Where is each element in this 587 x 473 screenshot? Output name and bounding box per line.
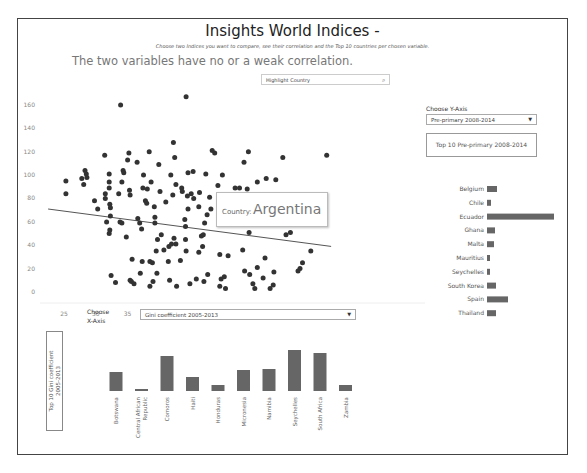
scatter-point	[191, 169, 196, 174]
scatter-point	[263, 256, 268, 261]
scatter-point	[151, 279, 156, 284]
scatter-point	[183, 224, 188, 229]
scatter-point	[245, 187, 250, 192]
scatter-point	[180, 189, 185, 194]
y-tick-label: 60	[27, 218, 35, 225]
scatter-point	[223, 286, 228, 291]
scatter-point	[222, 274, 227, 279]
y-top10-country-label: Thailand	[457, 309, 484, 316]
y-top10-bar	[487, 269, 490, 275]
scatter-point	[174, 284, 179, 289]
scatter-point	[145, 187, 150, 192]
scatter-point	[210, 148, 215, 153]
y-tick-label: 40	[27, 241, 35, 248]
scatter-point	[185, 194, 190, 199]
scatter-point	[95, 207, 100, 212]
x-axis-dropdown[interactable]: Gini coefficient 2005-2013 ▼	[140, 309, 356, 320]
scatter-point	[271, 283, 276, 288]
x-top10-bar	[314, 353, 327, 391]
scatter-point	[155, 237, 160, 242]
scatter-point	[178, 258, 183, 263]
x-axis-label-line1: Choose	[87, 307, 109, 316]
x-top10-bar	[339, 385, 352, 391]
country-tooltip: Country: Argentina	[216, 192, 328, 227]
tooltip-label: Country:	[222, 208, 252, 216]
scatter-point	[247, 272, 252, 277]
scatter-point	[132, 281, 137, 286]
y-tick-label: 20	[27, 265, 35, 272]
scatter-point	[116, 191, 121, 196]
y-top10-title: Top 10 Pre-primary 2008-2014	[426, 133, 537, 157]
scatter-point	[107, 186, 112, 191]
scatter-point	[186, 207, 191, 212]
scatter-point	[107, 171, 112, 176]
scatter-point	[108, 205, 113, 210]
scatter-point	[139, 226, 144, 231]
search-placeholder: Highlight Country	[266, 77, 310, 83]
x-top10-country-label: Haiti	[190, 397, 196, 410]
y-top10-bar	[487, 214, 554, 220]
scatter-point	[103, 196, 108, 201]
scatter-point	[158, 189, 163, 194]
scatter-point	[300, 260, 305, 265]
scatter-point	[296, 269, 301, 274]
y-tick-label: 140	[24, 124, 36, 131]
scatter-point	[170, 193, 175, 198]
y-top10-bar	[487, 296, 508, 302]
scatter-point	[242, 160, 247, 165]
scatter-point	[84, 175, 89, 180]
scatter-point	[159, 232, 164, 237]
scatter-point	[226, 253, 231, 258]
scatter-point	[200, 244, 205, 249]
scatter-point	[154, 249, 159, 254]
y-axis-dropdown[interactable]: Pre-primary 2008-2014 ▼	[426, 114, 537, 125]
scatter-point	[217, 252, 222, 257]
scatter-point	[187, 281, 192, 286]
scatter-point	[242, 269, 247, 274]
highlight-country-search[interactable]: Highlight Country ⌕	[261, 74, 390, 85]
scatter-point	[264, 176, 269, 181]
scatter-point	[207, 195, 212, 200]
scatter-point	[138, 271, 143, 276]
scatter-point	[203, 171, 208, 176]
choose-y-axis-label: Choose Y-Axis	[426, 105, 468, 112]
charts-canvas: 020406080100120140160253035404550556065B…	[0, 0, 587, 473]
y-top10-bar	[487, 186, 497, 192]
scatter-point	[288, 230, 293, 235]
scatter-point	[191, 196, 196, 201]
y-tick-label: 0	[31, 288, 35, 295]
scatter-point	[246, 149, 251, 154]
scatter-point	[197, 190, 202, 195]
scatter-point	[183, 237, 188, 242]
scatter-point	[184, 94, 189, 99]
x-top10-bar	[288, 350, 301, 391]
scatter-point	[163, 200, 168, 205]
x-top10-country-label: Botswana	[113, 397, 119, 424]
scatter-point	[172, 236, 177, 241]
scatter-point	[149, 180, 154, 185]
scatter-point	[173, 242, 178, 247]
scatter-point	[173, 182, 178, 187]
tooltip-value: Argentina	[253, 201, 321, 217]
scatter-point	[113, 280, 118, 285]
scatter-point	[147, 284, 152, 289]
x-axis-label-line2: X-Axis	[87, 316, 109, 325]
search-icon: ⌕	[382, 76, 385, 84]
scatter-point	[280, 155, 285, 160]
x-top10-country-label: Honduras	[215, 397, 221, 424]
scatter-point	[237, 186, 242, 191]
chevron-down-icon: ▼	[528, 116, 532, 122]
x-top10-country-label: Zambia	[343, 397, 349, 418]
scatter-point	[182, 217, 187, 222]
scatter-point	[217, 284, 222, 289]
scatter-point	[125, 157, 130, 162]
y-top10-country-label: Spain	[467, 295, 484, 303]
scatter-point	[150, 260, 155, 265]
x-axis-selected: Gini coefficient 2005-2013	[145, 312, 218, 318]
scatter-point	[201, 232, 206, 237]
choose-x-axis-label: Choose X-Axis	[87, 307, 109, 325]
scatter-point	[104, 219, 109, 224]
scatter-point	[205, 272, 210, 277]
scatter-point	[161, 247, 166, 252]
y-axis-selected: Pre-primary 2008-2014	[431, 117, 495, 123]
